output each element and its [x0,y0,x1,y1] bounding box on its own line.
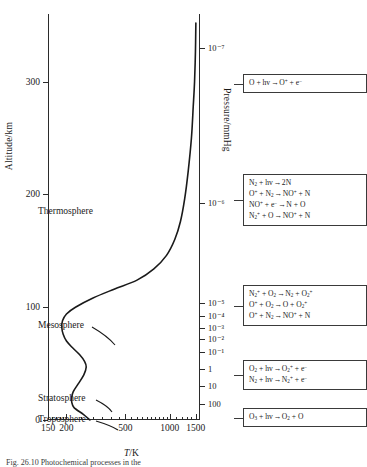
temperature-minor-tick [137,417,138,421]
reaction-box-leader [234,418,243,419]
temperature-tick-label: 1000 [160,423,179,433]
temperature-tick-label: 500 [118,423,132,433]
temperature-minor-tick [191,417,192,421]
temperature-tick-label: 150 [41,423,55,433]
pressure-axis-title: Pressure/mmHg [222,88,232,152]
mesosphere-box: N2+ + O2→N2 + O2+O+ + O2→O + O2+O+ + N2→… [243,285,367,326]
pressure-tick-label: 10⁻⁵ [208,298,224,308]
temperature-minor-tick [147,417,148,421]
temperature-minor-tick [163,417,164,421]
reaction: O+ + N2→NO+ + N [249,189,361,200]
region-label-thermosphere: Thermosphere [38,206,93,216]
pressure-tick-label: 100 [208,399,221,409]
temperature-minor-tick [167,417,168,421]
altitude-tick [43,194,48,195]
pressure-tick-label: 10⁻⁶ [208,198,224,208]
temperature-minor-tick [155,417,156,421]
altitude-tick-label: 100 [16,302,40,312]
pressure-tick-label: 10⁻⁷ [208,43,224,53]
pressure-tick [200,203,205,204]
altitude-tick-label: 200 [16,189,40,199]
region-label-troposphere: Troposphere [38,414,86,424]
temperature-minor-tick [102,417,103,421]
pressure-tick-label: 10⁻² [208,334,224,344]
temperature-tick-label: 200 [59,423,73,433]
reaction: NO+ + e−→N + O [249,200,361,211]
temperature-minor-tick [142,417,143,421]
pressure-tick [200,369,205,370]
reaction: O + hv→O+ + e− [249,78,361,89]
temperature-minor-tick [196,417,197,421]
pressure-tick [200,328,205,329]
altitude-tick [43,307,48,308]
reaction-box-leader [234,84,243,85]
altitude-tick-label: 0 [16,415,40,425]
pressure-tick-label: 10⁻⁴ [208,311,224,321]
temperature-minor-tick [93,417,94,421]
pressure-tick-label: 10⁻³ [208,323,224,333]
reaction: O+ + O2→O + O2+ [249,300,361,311]
temperature-axis-title: T/K [124,448,139,458]
temperature-profile-plot [48,14,200,420]
temperature-minor-tick [176,417,177,421]
ozone-box: O3 + hv→O2 + O [243,408,367,427]
temperature-minor-tick [119,417,120,421]
thermosphere-box: N2 + hv→2NO+ + N2→NO+ + NNO+ + e−→N + ON… [243,174,367,226]
figure-caption: Fig. 26.10 Photochemical processes in th… [6,458,141,467]
temperature-minor-tick [131,417,132,421]
reaction: N2 + hv→2N [249,178,361,189]
altitude-axis-title: Altitude/km [4,122,14,170]
temperature-minor-tick [151,417,152,421]
temperature-tick [125,414,126,420]
pressure-tick [200,339,205,340]
stratosphere-box: O2 + hv→O2+ + e−N2 + hv→N2+ + e− [243,360,367,390]
reaction: O+ + N2→NO+ + N [249,311,361,322]
reaction-box-leader [234,375,243,376]
altitude-tick-label: 300 [16,77,40,87]
pressure-tick [200,404,205,405]
temperature-tick [170,414,171,420]
temperature-minor-tick [182,417,183,421]
reaction: O3 + hv→O2 + O [249,412,361,423]
region-label-stratosphere: Stratosphere [38,393,86,403]
reaction: N2+ + O→NO+ + N [249,211,361,222]
temperature-minor-tick [159,417,160,421]
reaction: N2 + hv→N2+ + e− [249,375,361,386]
altitude-tick [43,82,48,83]
reaction: O2 + hv→O2+ + e− [249,364,361,375]
temperature-tick-label: 1500 [186,423,205,433]
pressure-tick [200,303,205,304]
reaction: N2+ + O2→N2 + O2+ [249,289,361,300]
temperature-minor-tick [187,417,188,421]
reaction-box-leader [234,306,243,307]
pressure-tick [200,48,205,49]
region-leader-lines [48,14,200,420]
pressure-tick-label: 10 [208,381,217,391]
region-label-mesosphere: Mesosphere [38,320,84,330]
temperature-minor-tick [111,417,112,421]
pressure-tick [200,316,205,317]
pressure-tick [200,386,205,387]
reaction-box-leader [234,200,243,201]
pressure-tick-label: 1 [208,364,212,374]
atmosphere-figure: Altitude/km Pressure/mmHg T/K 0100200300… [0,0,367,467]
ionosphere-box: O + hv→O+ + e− [243,74,367,93]
pressure-tick-label: 10⁻¹ [208,347,224,357]
pressure-tick [200,352,205,353]
